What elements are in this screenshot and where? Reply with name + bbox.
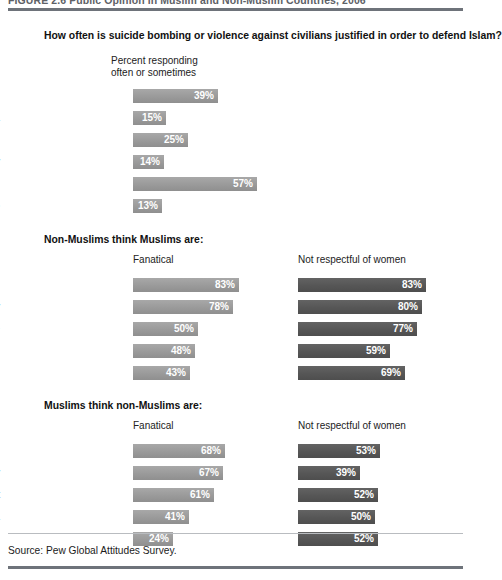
bar-fanatical-wrap: 25% xyxy=(133,133,188,147)
bar: 15% xyxy=(133,111,166,125)
bar: 25% xyxy=(133,133,188,147)
bar-value: 48% xyxy=(171,344,191,358)
bar-value: 52% xyxy=(354,488,374,502)
bar: 14% xyxy=(133,155,164,169)
bar-value: 57% xyxy=(233,177,253,191)
bar-fanatical-wrap: 61% xyxy=(133,488,214,502)
bar-fanatical-wrap: 41% xyxy=(133,510,189,524)
source-note: Source: Pew Global Attitudes Survey. xyxy=(8,545,177,556)
bar-value: 78% xyxy=(209,300,229,314)
section-2-column-header-fanatical: Fanatical xyxy=(133,254,174,267)
bar-value: 59% xyxy=(366,344,386,358)
section-1-question: How often is suicide bombing or violence… xyxy=(44,29,502,42)
bar: 77% xyxy=(298,322,417,336)
bar: 53% xyxy=(298,444,380,458)
bar: 52% xyxy=(298,488,378,502)
bar-value: 67% xyxy=(199,466,219,480)
bar-fanatical-wrap: 78% xyxy=(133,300,233,314)
bar-value: 77% xyxy=(393,322,413,336)
bar: 57% xyxy=(133,177,257,191)
bar-fanatical-wrap: 67% xyxy=(133,466,223,480)
bar: 48% xyxy=(133,344,195,358)
bar-value: 24% xyxy=(149,532,169,546)
section-3-column-header-fanatical: Fanatical xyxy=(133,420,174,433)
section-1-column-header-line1: Percent responding xyxy=(111,55,198,68)
bar-not-respectful-wrap: 53% xyxy=(298,444,380,458)
bar: 41% xyxy=(133,510,189,524)
bar: 39% xyxy=(133,89,218,103)
bar-value: 61% xyxy=(190,488,210,502)
bar-fanatical-wrap: 83% xyxy=(133,278,239,292)
bar-value: 43% xyxy=(166,366,186,380)
bar-not-respectful-wrap: 80% xyxy=(298,300,422,314)
bar-value: 83% xyxy=(402,278,422,292)
bar-not-respectful-wrap: 69% xyxy=(298,366,405,380)
bar-fanatical-wrap: 57% xyxy=(133,177,257,191)
bar: 78% xyxy=(133,300,233,314)
bar: 67% xyxy=(133,466,223,480)
bar: 13% xyxy=(133,199,162,213)
bar-fanatical-wrap: 15% xyxy=(133,111,166,125)
bar-value: 50% xyxy=(351,510,371,524)
section-3-title: Muslims think non-Muslims are: xyxy=(44,399,202,412)
top-rule xyxy=(8,8,463,11)
bar-not-respectful-wrap: 77% xyxy=(298,322,417,336)
bar-value: 14% xyxy=(140,155,160,169)
bar-value: 25% xyxy=(164,133,184,147)
bar-fanatical-wrap: 13% xyxy=(133,199,162,213)
bar-not-respectful-wrap: 52% xyxy=(298,532,378,546)
bar-value: 15% xyxy=(142,111,162,125)
bar-fanatical-wrap: 14% xyxy=(133,155,164,169)
bar-fanatical-wrap: 48% xyxy=(133,344,195,358)
bar-fanatical-wrap: 39% xyxy=(133,89,218,103)
bar: 83% xyxy=(298,278,426,292)
figure-number-title-text: FIGURE 2.6 Public Opinion in Muslim and … xyxy=(8,0,463,6)
bar: 50% xyxy=(298,510,375,524)
bar: 83% xyxy=(133,278,239,292)
bar: 61% xyxy=(133,488,214,502)
footer-divider xyxy=(8,533,463,534)
bar: 43% xyxy=(133,366,190,380)
bar: 59% xyxy=(298,344,390,358)
section-2-title: Non-Muslims think Muslims are: xyxy=(44,233,203,246)
bar-fanatical-wrap: 68% xyxy=(133,444,225,458)
bar-value: 52% xyxy=(354,532,374,546)
section-3-column-header-not-respectful: Not respectful of women xyxy=(298,420,406,433)
bar-value: 39% xyxy=(336,466,356,480)
bar-fanatical-wrap: 50% xyxy=(133,322,198,336)
figure-number-title: FIGURE 2.6 Public Opinion in Muslim and … xyxy=(8,0,463,6)
bar-not-respectful-wrap: 83% xyxy=(298,278,426,292)
bar-value: 80% xyxy=(398,300,418,314)
bar-not-respectful-wrap: 50% xyxy=(298,510,375,524)
bar: 52% xyxy=(298,532,378,546)
bar-value: 39% xyxy=(194,89,214,103)
bar-value: 83% xyxy=(215,278,235,292)
bar: 69% xyxy=(298,366,405,380)
bar: 80% xyxy=(298,300,422,314)
bottom-rule xyxy=(8,566,463,569)
bar-fanatical-wrap: 43% xyxy=(133,366,190,380)
bar-not-respectful-wrap: 39% xyxy=(298,466,360,480)
bar: 24% xyxy=(133,532,173,546)
bar-value: 13% xyxy=(138,199,158,213)
bar-value: 41% xyxy=(165,510,185,524)
bar-value: 68% xyxy=(201,444,221,458)
bar-value: 69% xyxy=(381,366,401,380)
section-1-column-header-line2: often or sometimes xyxy=(111,67,196,80)
bar: 39% xyxy=(298,466,360,480)
bar-fanatical-wrap: 24% xyxy=(133,532,173,546)
bar-not-respectful-wrap: 52% xyxy=(298,488,378,502)
bar-value: 53% xyxy=(356,444,376,458)
bar: 50% xyxy=(133,322,198,336)
bar-value: 50% xyxy=(174,322,194,336)
bar: 68% xyxy=(133,444,225,458)
bar-not-respectful-wrap: 59% xyxy=(298,344,390,358)
section-2-column-header-not-respectful: Not respectful of women xyxy=(298,254,406,267)
